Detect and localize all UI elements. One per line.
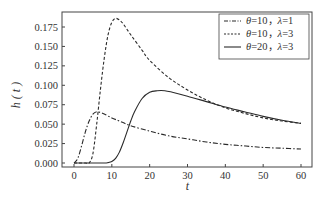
y-tick-label: 0.075: [34, 99, 58, 110]
y-axis-label: h ( t ): [9, 82, 23, 108]
chart: 0102030405060 0.0000.0250.0500.0750.1000…: [0, 0, 326, 203]
x-tick-label: 50: [258, 170, 269, 181]
y-tick-label: 0.175: [34, 22, 58, 33]
y-tick-label: 0.100: [34, 80, 58, 91]
y-tick-label: 0.050: [34, 119, 58, 130]
y-tick-label: 0.025: [34, 138, 58, 149]
x-tick-label: 10: [107, 170, 118, 181]
y-tick-label: 0.150: [34, 41, 58, 52]
legend-label-3: θ=20，λ=3: [246, 41, 293, 52]
series-line-3: [74, 91, 301, 163]
y-axis: 0.0000.0250.0500.0750.1000.1250.1500.175: [34, 22, 65, 169]
x-tick-label: 20: [144, 170, 155, 181]
x-tick-label: 40: [220, 170, 231, 181]
x-axis-label: t: [186, 179, 190, 193]
y-tick-label: 0.125: [34, 60, 58, 71]
y-tick-label: 0.000: [34, 158, 58, 169]
x-tick-label: 0: [71, 170, 76, 181]
x-tick-label: 60: [296, 170, 307, 181]
legend-label-2: θ=10，λ=3: [246, 28, 293, 39]
legend-label-1: θ=10，λ=1: [246, 15, 293, 26]
legend: θ=10，λ=1θ=10，λ=3θ=20，λ=3: [219, 14, 309, 59]
series-line-1: [74, 112, 301, 163]
